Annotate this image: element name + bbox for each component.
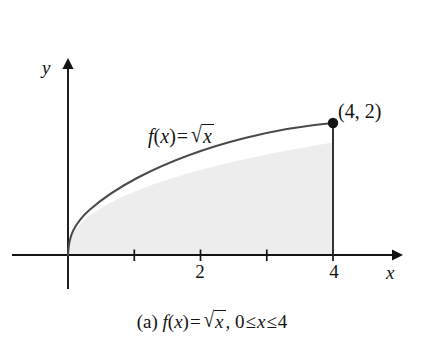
x-axis-arrowhead (392, 249, 403, 260)
function-variable: x (160, 125, 169, 147)
caption-part-letter: (a) (137, 311, 158, 332)
point-coordinate-label: (4, 2) (338, 101, 381, 121)
caption-square-root-expression: √x (202, 310, 226, 331)
figure-container: y x 2 4 f(x)=√x (4, 2) (a) f(x)=√x, 0≤x≤… (0, 0, 424, 364)
function-equals-sign: = (176, 125, 189, 147)
caption-le-second: ≤ (265, 311, 277, 332)
radical-icon: √ (191, 122, 202, 145)
caption-equals-sign: = (189, 311, 202, 332)
x-tick-label-4: 4 (319, 262, 349, 281)
point-marker-4-2 (328, 118, 338, 128)
square-root-expression: √x (189, 124, 214, 146)
caption-domain-lower: 0 (235, 311, 245, 332)
function-equation-label: f(x)=√x (148, 124, 214, 146)
caption-variable: x (174, 311, 182, 332)
y-axis-label: y (42, 58, 50, 77)
area-fill (68, 143, 333, 256)
caption-radicand: x (214, 310, 225, 331)
caption-domain-upper: 4 (278, 311, 288, 332)
figure-caption: (a) f(x)=√x, 0≤x≤4 (0, 310, 424, 331)
radicand: x (202, 124, 214, 146)
caption-comma: , (226, 311, 231, 332)
caption-le-first: ≤ (245, 311, 257, 332)
y-axis-arrowhead (62, 58, 73, 69)
function-rparen: ) (169, 125, 176, 147)
caption-radical-icon: √ (204, 309, 214, 331)
x-axis-label: x (386, 263, 394, 282)
x-tick-label-2: 2 (185, 262, 215, 281)
caption-rparen: ) (183, 311, 189, 332)
